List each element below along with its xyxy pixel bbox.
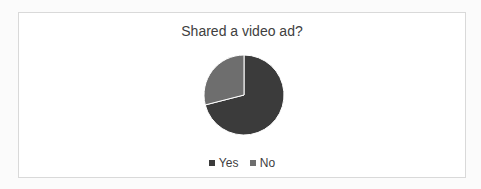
chart-title: Shared a video ad?	[19, 23, 465, 39]
legend-item-yes: Yes	[209, 156, 239, 170]
legend-label: No	[260, 156, 275, 170]
chart-frame: Shared a video ad? Yes No	[18, 12, 466, 178]
pie-chart	[202, 53, 286, 137]
chart-legend: Yes No	[19, 156, 465, 170]
legend-swatch-yes-icon	[209, 160, 215, 166]
legend-label: Yes	[219, 156, 239, 170]
legend-swatch-no-icon	[250, 160, 256, 166]
legend-item-no: No	[250, 156, 275, 170]
